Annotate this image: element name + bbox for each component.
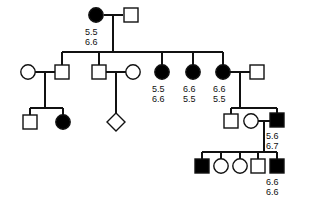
allele-value-II-6-1: 6.6 — [183, 84, 196, 94]
individual-II-1-unaffected-circle[interactable] — [21, 65, 35, 79]
individual-III-6-affected-square[interactable] — [270, 113, 284, 127]
allele-value-II-7-2: 5.5 — [213, 94, 226, 104]
individual-III-2-affected-circle[interactable] — [56, 115, 70, 129]
pedigree-chart: 5.56.65.56.66.65.56.65.55.66.76.66.6 — [0, 0, 313, 201]
allele-value-III-6-2: 6.7 — [266, 141, 279, 151]
allele-value-I-1-2: 6.6 — [85, 37, 98, 47]
genotype-label-IV-5: 6.66.6 — [266, 177, 279, 197]
genotype-label-I-1: 5.56.6 — [85, 27, 98, 47]
individual-II-5-affected-circle[interactable] — [155, 65, 169, 79]
individual-III-1-unaffected-square[interactable] — [23, 115, 37, 129]
allele-value-II-5-2: 6.6 — [152, 94, 165, 104]
genotype-label-III-6: 5.66.7 — [266, 131, 279, 151]
allele-value-II-7-1: 6.6 — [213, 84, 226, 94]
allele-value-I-1-1: 5.5 — [85, 27, 98, 37]
genotype-label-II-6: 6.65.5 — [183, 84, 196, 104]
allele-value-IV-5-1: 6.6 — [266, 177, 279, 187]
individual-IV-5-affected-square[interactable] — [270, 159, 284, 173]
allele-value-II-6-2: 5.5 — [183, 94, 196, 104]
individual-IV-4-unaffected-square[interactable] — [251, 159, 265, 173]
allele-value-IV-5-2: 6.6 — [266, 187, 279, 197]
individual-IV-1-affected-square[interactable] — [195, 159, 209, 173]
individual-I-1-affected-circle[interactable] — [89, 8, 103, 22]
individual-III-4-unaffected-square[interactable] — [224, 114, 238, 128]
individual-II-4-unaffected-circle[interactable] — [126, 65, 140, 79]
individual-II-2-unaffected-square[interactable] — [55, 65, 69, 79]
genotype-label-II-7: 6.65.5 — [213, 84, 226, 104]
individual-IV-2-unaffected-circle[interactable] — [214, 159, 228, 173]
allele-value-II-5-1: 5.5 — [152, 84, 165, 94]
allele-value-III-6-1: 5.6 — [266, 131, 279, 141]
individual-II-8-unaffected-square[interactable] — [250, 65, 264, 79]
genotype-label-II-5: 5.56.6 — [152, 84, 165, 104]
individual-III-3-unaffected-diamond[interactable] — [107, 113, 125, 131]
individual-IV-3-unaffected-circle[interactable] — [233, 159, 247, 173]
individual-III-5-unaffected-circle[interactable] — [244, 114, 258, 128]
individual-II-6-affected-circle[interactable] — [186, 65, 200, 79]
individual-II-3-unaffected-square[interactable] — [92, 65, 106, 79]
individual-II-7-affected-circle[interactable] — [216, 65, 230, 79]
individual-I-2-unaffected-square[interactable] — [124, 8, 138, 22]
